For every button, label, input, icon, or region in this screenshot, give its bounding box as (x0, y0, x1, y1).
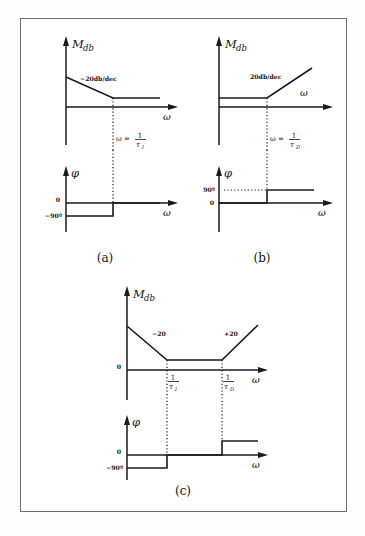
panel-b-ph-y-label: φ (224, 166, 232, 180)
panel-b-break-denominator-sub: D (295, 144, 300, 150)
panel-b-ph-x-arrow (323, 200, 333, 206)
panel-b-break-prefix: ω = (270, 135, 284, 143)
panel-c-phase (124, 404, 268, 480)
panel-b-ph-y-arrow (216, 166, 222, 176)
panel-c-break1-denominator-sub: I (174, 386, 178, 392)
panel-b-ph-curve (219, 190, 314, 203)
panel-a-ph-tick-low: −90º (45, 212, 62, 219)
panel-c-caption: (c) (175, 484, 191, 498)
panel-a-ph-x-arrow (168, 200, 178, 206)
panel-b-mag-slope-label: 20db/dec (250, 73, 282, 80)
panel-a-ph-y-arrow (63, 166, 69, 176)
panel-b-magnitude (216, 36, 333, 150)
panel-a-caption: (a) (97, 251, 114, 265)
panel-b-mag-x-label: ω (300, 87, 308, 98)
panel-a-mag-x-label: ω (163, 111, 171, 122)
panel-a-break-prefix: ω = (116, 135, 130, 143)
panel-b-mag-x-arrow (323, 104, 333, 110)
panel-c-mag-slope-right: +20 (224, 330, 238, 337)
figure-page: M db −20db/dec ω ω = 1 τ I φ 0 −90º ω (a… (0, 0, 365, 536)
panel-c-magnitude (124, 286, 268, 404)
panel-a-mag-x-arrow (168, 104, 178, 110)
panel-a-ph-x-label: ω (163, 207, 171, 218)
panel-a-mag-y-label-sub: db (83, 43, 94, 53)
panel-c-mag-x-label: ω (252, 374, 260, 385)
panel-c-break1-label: 1 τ I (168, 374, 179, 392)
panel-b-mag-y-label-sub: db (236, 43, 247, 53)
panel-c-mag-y-arrow (124, 286, 130, 296)
panel-b-ph-tick-high: 90º (203, 186, 215, 193)
panel-c-mag-y-label-sub: db (144, 293, 155, 303)
panel-a-magnitude (63, 36, 178, 150)
panel-a-break-denominator: τ (136, 141, 140, 149)
panel-a-ph-curve (66, 203, 160, 216)
bode-plot-figure: M db −20db/dec ω ω = 1 τ I φ 0 −90º ω (a… (0, 0, 365, 536)
panel-c-ph-y-label: φ (132, 415, 140, 429)
panel-a-mag-slope-label: −20db/dec (80, 75, 117, 82)
panel-b-ph-tick-zero: 0 (210, 199, 215, 206)
panel-c-ph-x-arrow (258, 452, 268, 458)
panel-c-break1-denominator: τ (169, 383, 173, 391)
panel-c-break2-denominator: τ (224, 383, 228, 391)
panel-b-break-denominator: τ (290, 141, 294, 149)
panel-b-mag-y-arrow (216, 36, 222, 46)
panel-b-break-label: ω = 1 τ D (270, 132, 300, 150)
panel-c-ph-x-label: ω (252, 459, 260, 470)
panel-b-break-numerator: 1 (292, 132, 296, 140)
panel-a-mag-y-arrow (63, 36, 69, 46)
panel-c-mag-slope-left: −20 (152, 330, 166, 337)
panel-c-mag-curve (127, 325, 258, 360)
panel-a-break-label: ω = 1 τ I (116, 132, 146, 150)
panel-c-break2-numerator: 1 (226, 374, 230, 382)
panel-c-break2-denominator-sub: D (229, 386, 234, 392)
panel-a-break-denominator-sub: I (141, 144, 145, 150)
panel-b-caption: (b) (253, 251, 270, 265)
panel-b-ph-x-label: ω (318, 207, 326, 218)
panel-c-ph-tick-zero: 0 (117, 448, 122, 455)
panel-c-ph-tick-low: −90º (106, 464, 123, 471)
panel-c-break1-numerator: 1 (171, 374, 175, 382)
panel-c-break2-label: 1 τ D (223, 374, 234, 392)
panel-b-phase (216, 150, 333, 232)
panel-a-ph-y-label: φ (71, 166, 79, 180)
panel-c-mag-tick-zero: 0 (117, 363, 122, 370)
panel-a-break-numerator: 1 (138, 132, 142, 140)
panel-c-ph-y-arrow (124, 415, 130, 425)
panel-a-ph-tick-zero: 0 (56, 196, 61, 203)
panel-a-phase (63, 150, 178, 232)
panel-c-mag-x-arrow (258, 367, 268, 373)
